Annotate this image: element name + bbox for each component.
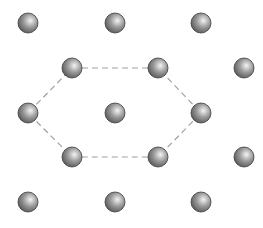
atom-sphere (191, 103, 211, 123)
atom-group (18, 13, 254, 212)
hexagonal-lattice-diagram (0, 0, 263, 228)
atom-sphere (191, 192, 211, 212)
atom-sphere (62, 147, 82, 167)
atom-sphere (148, 58, 168, 78)
atom-sphere (18, 13, 38, 33)
atom-sphere (105, 103, 125, 123)
atom-sphere (62, 58, 82, 78)
atom-sphere (18, 103, 38, 123)
atom-sphere (18, 192, 38, 212)
atom-sphere (105, 13, 125, 33)
atom-sphere (148, 147, 168, 167)
atom-sphere (234, 58, 254, 78)
atom-sphere (191, 13, 211, 33)
atom-sphere (234, 147, 254, 167)
atom-sphere (105, 192, 125, 212)
